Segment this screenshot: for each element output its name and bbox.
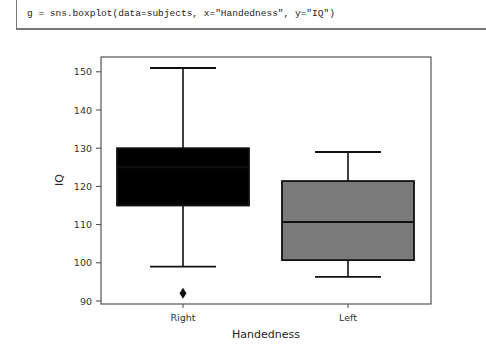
boxes (117, 68, 414, 299)
box-left (282, 152, 414, 277)
iqr-box (117, 148, 249, 205)
outlier-diamond-icon (180, 288, 187, 299)
box-right (117, 68, 249, 299)
y-tick-label: 150 (74, 66, 92, 77)
y-axis: 90100110120130140150 (74, 66, 101, 306)
y-tick-label: 120 (74, 181, 92, 192)
y-axis-label: IQ (53, 174, 66, 186)
iqr-box (282, 181, 414, 260)
y-tick-label: 100 (74, 257, 92, 268)
x-axis: RightLeft (170, 304, 357, 323)
x-tick-label-right: Right (170, 312, 195, 323)
y-tick-label: 140 (74, 105, 92, 116)
y-tick-label: 90 (80, 296, 92, 307)
y-tick-label: 130 (74, 143, 92, 154)
x-axis-label: Handedness (232, 328, 300, 341)
x-tick-label-left: Left (339, 312, 357, 323)
y-tick-label: 110 (74, 219, 92, 230)
